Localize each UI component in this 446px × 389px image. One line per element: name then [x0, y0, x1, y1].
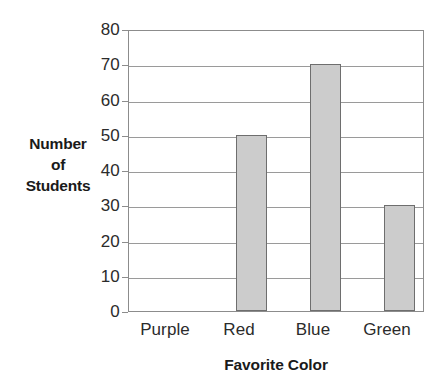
gridline [129, 207, 423, 208]
y-axis-tick-label: 40 [84, 161, 120, 181]
y-axis-tick-label: 30 [84, 196, 120, 216]
y-axis-tick-label: 0 [84, 302, 120, 322]
x-axis-label-purple: Purple [128, 320, 202, 340]
x-axis-label-green: Green [350, 320, 424, 340]
y-axis-tick-mark [122, 312, 128, 313]
bar-green [384, 205, 415, 311]
bar-blue [310, 64, 341, 311]
y-axis-tick-label: 70 [84, 55, 120, 75]
y-axis-tick-label: 10 [84, 267, 120, 287]
bar-chart: Number of Students 01020304050607080 Pur… [0, 0, 446, 389]
gridline [129, 172, 423, 173]
gridline [129, 102, 423, 103]
y-axis-tick-label: 20 [84, 232, 120, 252]
y-axis-tick-label: 50 [84, 126, 120, 146]
y-axis-tick-labels: 01020304050607080 [80, 0, 120, 389]
y-axis-tick-label: 60 [84, 91, 120, 111]
gridline [129, 137, 423, 138]
y-axis-tick-label: 80 [84, 20, 120, 40]
plot-area [128, 30, 424, 312]
x-axis-label-red: Red [202, 320, 276, 340]
gridline [129, 243, 423, 244]
x-axis-title: Favorite Color [128, 356, 424, 374]
gridline [129, 278, 423, 279]
bar-red [236, 135, 267, 311]
x-axis-label-blue: Blue [276, 320, 350, 340]
gridline [129, 66, 423, 67]
